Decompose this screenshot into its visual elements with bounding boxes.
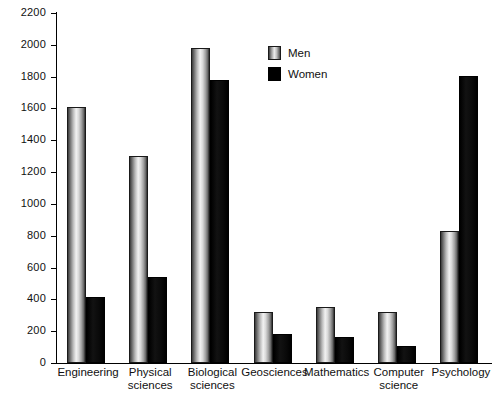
bar-women-1 xyxy=(148,277,167,363)
bar-women-6 xyxy=(459,76,478,363)
legend-label-women: Women xyxy=(288,68,327,80)
men-swatch-icon xyxy=(268,46,281,60)
legend-item-men: Men xyxy=(268,44,327,61)
bar-women-2 xyxy=(210,80,229,363)
legend-item-women: Women xyxy=(268,65,327,82)
bar-men-1 xyxy=(129,156,148,363)
bar-men-4 xyxy=(316,307,335,363)
bar-men-2 xyxy=(191,48,210,363)
bar-women-4 xyxy=(335,337,354,363)
bar-women-0 xyxy=(86,297,105,363)
legend: Men Women xyxy=(268,44,327,86)
bar-men-3 xyxy=(254,312,273,363)
bar-men-5 xyxy=(378,312,397,363)
bar-women-5 xyxy=(397,346,416,363)
legend-label-men: Men xyxy=(288,47,310,59)
bar-chart: 0200400600800100012001400160018002000220… xyxy=(0,0,498,404)
category-label-6: Psychology xyxy=(422,366,498,379)
bar-men-6 xyxy=(440,231,459,363)
women-swatch-icon xyxy=(268,67,281,81)
bar-women-3 xyxy=(273,334,292,363)
bars-layer xyxy=(0,0,498,404)
bar-men-0 xyxy=(67,107,86,363)
